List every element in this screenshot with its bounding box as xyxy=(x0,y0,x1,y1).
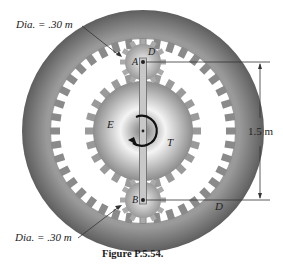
planetary-gear-diagram xyxy=(0,0,283,266)
dimension-label: 1.5 m xyxy=(248,125,273,137)
gear-a-label: A xyxy=(132,56,138,67)
gear-b-label: B xyxy=(132,194,138,205)
point-d-top-label: D xyxy=(148,46,155,57)
top-planet-diameter-label: Dia. = .30 m xyxy=(16,18,73,30)
figure-caption: Figure P.5.54. xyxy=(102,248,163,259)
sun-gear-label: E xyxy=(107,118,114,130)
torque-label: T xyxy=(167,136,173,148)
bottom-planet-diameter-label: Dia. = .30 m xyxy=(15,231,72,243)
point-d-label: D xyxy=(215,200,223,212)
